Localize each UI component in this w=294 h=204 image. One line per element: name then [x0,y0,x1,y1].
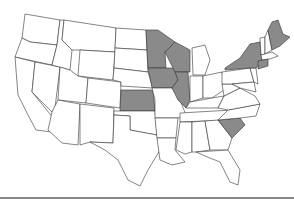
state-ohio [203,72,224,98]
state-washington [22,14,60,45]
state-michigan [192,45,210,75]
state-indiana [190,76,203,102]
state-mississippi [176,122,192,154]
state-pennsylvania [222,68,254,84]
state-new-mexico [80,104,114,145]
state-wyoming [78,50,115,80]
state-colorado [86,78,121,108]
state-maine [268,20,290,50]
state-montana [62,20,116,52]
state-north-dakota [115,28,147,50]
state-kansas [120,90,155,111]
state-new-york [225,42,262,70]
us-map [0,0,294,204]
bottom-divider [0,197,294,199]
state-arkansas [155,118,178,138]
state-connecticut [258,59,268,69]
state-vermont [260,37,265,55]
state-florida [196,150,240,185]
state-iowa [148,68,178,88]
